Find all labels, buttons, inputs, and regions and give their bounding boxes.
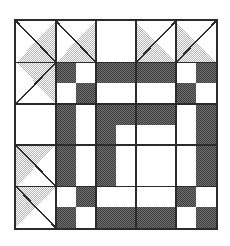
chain-patch — [196, 62, 216, 83]
chain-patch — [76, 187, 96, 208]
chain-patch — [56, 166, 76, 187]
chain-patch — [196, 166, 216, 187]
chain-patch — [56, 62, 76, 83]
chain-patch — [56, 104, 76, 125]
chain-patch — [96, 62, 116, 83]
chain-patch — [56, 125, 76, 146]
chain-patch — [196, 104, 216, 125]
patch-edge-top-center-ground — [96, 21, 136, 62]
chain-patch — [96, 104, 116, 125]
quilt-block-frame — [14, 19, 218, 230]
chain-patch — [56, 207, 76, 228]
chain-patch — [96, 125, 116, 146]
chain-patch — [156, 104, 176, 125]
chain-patch — [156, 207, 176, 228]
chain-patch — [176, 187, 196, 208]
chain-patch — [136, 207, 156, 228]
chain-patch — [176, 83, 196, 104]
chain-patch — [116, 104, 136, 125]
chain-patch — [56, 145, 76, 166]
center-square-patch — [116, 125, 176, 187]
chain-patch — [196, 125, 216, 146]
chain-patch — [196, 207, 216, 228]
chain-patch — [116, 62, 136, 83]
chain-patch — [116, 207, 136, 228]
chain-patch — [76, 83, 96, 104]
chain-patch — [96, 166, 116, 187]
chain-patch — [96, 207, 116, 228]
chain-patch — [136, 62, 156, 83]
chain-patch — [136, 104, 156, 125]
chain-patch — [156, 62, 176, 83]
quilt-block-diagram — [16, 21, 216, 228]
quilt-canvas — [0, 0, 230, 246]
patch-edge-left-middle-ground — [16, 104, 56, 145]
chain-patch — [96, 145, 116, 166]
chain-patch — [196, 145, 216, 166]
